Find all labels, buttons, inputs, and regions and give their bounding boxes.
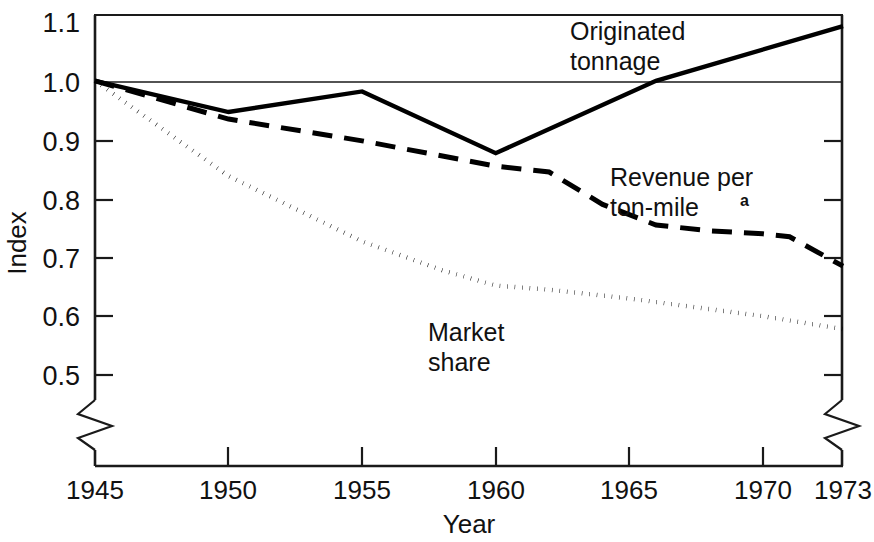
y-axis-title: Index <box>2 211 32 275</box>
x-tick-label-1945: 1945 <box>66 475 124 505</box>
annotation-market-share: Market share <box>428 318 504 376</box>
annotation-originated-tonnage-line1: Originated <box>570 17 685 45</box>
x-tick-label-1955: 1955 <box>333 475 391 505</box>
axis-break-left-icon <box>78 400 112 450</box>
annotation-originated-tonnage: Originated tonnage <box>570 17 685 75</box>
annotation-revenue-line1: Revenue per <box>610 163 753 191</box>
x-tick-label-1965: 1965 <box>600 475 658 505</box>
x-tick-label-1970: 1970 <box>734 475 792 505</box>
y-tick-label-1p1: 1.1 <box>42 8 80 38</box>
y-tick-label-0p7: 0.7 <box>42 244 80 274</box>
annotation-market-share-line2: share <box>428 348 491 376</box>
y-tick-label-0p5: 0.5 <box>42 361 80 391</box>
y-tick-label-0p8: 0.8 <box>42 186 80 216</box>
axis-break-right-icon <box>825 400 859 450</box>
y-tick-label-0p6: 0.6 <box>42 302 80 332</box>
x-tick-labels: 1945 1950 1955 1960 1965 1970 1973 <box>66 475 872 505</box>
x-tick-label-1950: 1950 <box>199 475 257 505</box>
chart-container: 1.1 1.0 0.9 0.8 0.7 0.6 0.5 1945 1950 19… <box>0 0 874 542</box>
y-tick-marks <box>95 141 113 375</box>
x-tick-label-1973: 1973 <box>814 475 872 505</box>
x-tick-marks <box>228 447 763 466</box>
x-axis-title: Year <box>443 509 496 539</box>
annotation-revenue-superscript: a <box>740 192 749 209</box>
x-tick-label-1960: 1960 <box>467 475 525 505</box>
annotation-revenue-per-ton-mile: Revenue per ton-mile a <box>610 163 753 221</box>
line-chart: 1.1 1.0 0.9 0.8 0.7 0.6 0.5 1945 1950 19… <box>0 0 874 542</box>
annotation-originated-tonnage-line2: tonnage <box>570 47 660 75</box>
y-tick-labels: 1.1 1.0 0.9 0.8 0.7 0.6 0.5 <box>42 8 80 391</box>
annotation-market-share-line1: Market <box>428 318 504 346</box>
y-tick-label-1p0: 1.0 <box>42 68 80 98</box>
y-tick-label-0p9: 0.9 <box>42 127 80 157</box>
y-tick-marks-right <box>824 141 842 375</box>
annotation-revenue-line2: ton-mile <box>610 193 699 221</box>
series-line-originated-tonnage <box>95 26 843 153</box>
series-line-market-share <box>95 81 843 329</box>
